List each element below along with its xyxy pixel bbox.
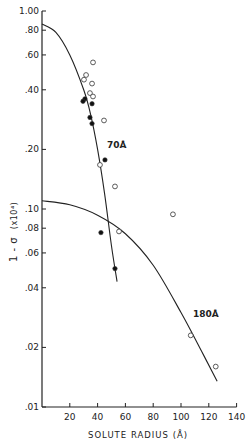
open-data-point <box>113 184 118 189</box>
filled-data-point <box>90 102 94 106</box>
y-tick-label: .60 <box>25 50 40 60</box>
x-axis-title: SOLUTE RADIUS (Å) <box>88 429 188 440</box>
y-tick-label: .10 <box>25 204 40 214</box>
y-tick-label: .40 <box>25 85 40 95</box>
y-tick-label: .06 <box>25 248 40 258</box>
open-data-point <box>188 333 193 338</box>
open-data-point <box>117 229 122 234</box>
open-data-point <box>102 118 107 123</box>
filled-data-point <box>81 99 85 103</box>
x-tick-label: 20 <box>64 412 76 422</box>
open-data-point <box>213 364 218 369</box>
y-tick-label: .04 <box>25 283 40 293</box>
open-data-point <box>90 81 95 86</box>
curve-label-180: 180Å <box>193 309 219 319</box>
y-tick-label: .01 <box>25 402 39 412</box>
filled-data-point <box>103 158 107 162</box>
open-data-point <box>84 73 89 78</box>
x-tick-label: 40 <box>92 412 104 422</box>
axes: .01.02.04.06.08.10.20.40.60.801.00204060… <box>19 6 246 422</box>
x-tick-label: 100 <box>172 412 189 422</box>
x-tick-label: 140 <box>228 412 245 422</box>
y-tick-label: .80 <box>25 25 40 35</box>
open-data-point <box>171 212 176 217</box>
open-data-point <box>91 60 96 65</box>
y-axis-title: 1 - σ (x10⁴) <box>8 202 19 262</box>
filled-data-point <box>113 266 117 270</box>
filled-data-point <box>88 115 92 119</box>
y-tick-label: .20 <box>25 144 40 154</box>
y-tick-label: .08 <box>25 223 40 233</box>
curve-180-angstrom <box>42 201 217 381</box>
filled-data-point <box>99 230 103 234</box>
open-data-point <box>91 94 96 99</box>
curve-label-70: 70Å <box>107 140 127 150</box>
x-tick-label: 60 <box>120 412 132 422</box>
filled-data-point <box>90 121 94 125</box>
log-scatter-chart: .01.02.04.06.08.10.20.40.60.801.00204060… <box>0 0 248 444</box>
x-tick-label: 80 <box>147 412 159 422</box>
y-tick-label: .02 <box>25 342 39 352</box>
fit-curves <box>42 24 217 381</box>
open-data-point <box>82 77 87 82</box>
data-points <box>81 60 218 369</box>
curve-70-angstrom <box>42 24 117 282</box>
x-tick-label: 120 <box>200 412 217 422</box>
y-tick-label: 1.00 <box>19 6 39 16</box>
open-data-point <box>98 163 103 168</box>
